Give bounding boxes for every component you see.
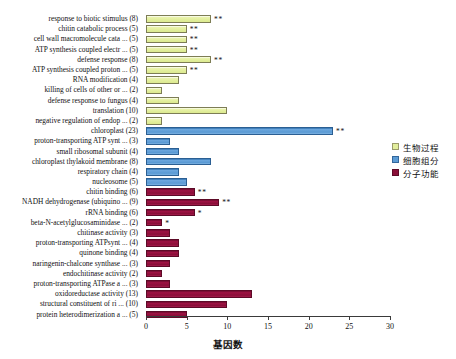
bar-row[interactable]: **	[146, 197, 390, 207]
bar-mf[interactable]	[146, 199, 219, 206]
legend-swatch-icon	[392, 156, 399, 163]
x-tick	[187, 316, 188, 320]
bar-bp[interactable]	[146, 36, 187, 43]
bar-row[interactable]	[146, 259, 390, 269]
x-axis-title: 基因数	[0, 337, 456, 351]
bar-cc[interactable]	[146, 127, 333, 134]
bar-cc[interactable]	[146, 168, 179, 175]
bar-bp[interactable]	[146, 56, 211, 63]
bar-cc[interactable]	[146, 148, 179, 155]
x-tick	[268, 316, 269, 320]
bar-row[interactable]: **	[146, 65, 390, 75]
go-enrichment-bar-chart: response to biotic stimulus (8)chitin ca…	[0, 0, 456, 359]
bar-row[interactable]: **	[146, 14, 390, 24]
bar-mf[interactable]	[146, 219, 162, 226]
bar-mf[interactable]	[146, 229, 170, 236]
category-label: oxidoreductase activity (13)	[55, 290, 138, 298]
legend-item-bp[interactable]: 生物过程	[392, 140, 439, 153]
bar-mf[interactable]	[146, 270, 162, 277]
legend-item-cc[interactable]: 细胞组分	[392, 153, 439, 166]
significance-marker: **	[190, 66, 199, 75]
legend-item-mf[interactable]: 分子功能	[392, 166, 439, 179]
bar-bp[interactable]	[146, 117, 162, 124]
bar-bp[interactable]	[146, 25, 187, 32]
category-label-row: ATP synthesis coupled electr ... (5)	[0, 45, 142, 55]
bar-cc[interactable]	[146, 138, 170, 145]
bar-row[interactable]	[146, 228, 390, 238]
category-label-row: protein heterodimerization a ... (5)	[0, 309, 142, 319]
category-label-row: RNA modification (4)	[0, 75, 142, 85]
bar-row[interactable]: **	[146, 34, 390, 44]
bar-row[interactable]	[146, 85, 390, 95]
bar-mf[interactable]	[146, 311, 187, 318]
bar-row[interactable]: **	[146, 55, 390, 65]
category-label: structural constituent of ri ... (10)	[40, 300, 138, 308]
category-label-row: proton-transporting ATPase a ... (3)	[0, 279, 142, 289]
category-label-row: chitin binding (6)	[0, 187, 142, 197]
x-tick-label: 25	[345, 322, 353, 331]
bar-mf[interactable]	[146, 290, 252, 297]
bar-row[interactable]	[146, 96, 390, 106]
category-label: beta-N-acetylglucosaminidase ... (2)	[31, 219, 138, 227]
category-label: defense response (8)	[77, 56, 138, 64]
bar-mf[interactable]	[146, 301, 227, 308]
legend-swatch-icon	[392, 143, 399, 150]
category-label: small ribosomal subunit (4)	[57, 148, 139, 156]
bar-mf[interactable]	[146, 188, 195, 195]
bar-row[interactable]: **	[146, 126, 390, 136]
category-label: cell wall macromolecule cata ... (5)	[34, 35, 138, 43]
bar-row[interactable]	[146, 177, 390, 187]
bar-mf[interactable]	[146, 260, 170, 267]
bar-row[interactable]: **	[146, 45, 390, 55]
category-label-column: response to biotic stimulus (8)chitin ca…	[0, 14, 142, 310]
bar-row[interactable]: **	[146, 24, 390, 34]
bar-cc[interactable]	[146, 158, 211, 165]
category-label-row: NADH dehydrogenase (ubiquino ... (9)	[0, 197, 142, 207]
bar-cc[interactable]	[146, 178, 187, 185]
significance-marker: **	[190, 35, 199, 44]
significance-marker: *	[165, 218, 169, 227]
bar-mf[interactable]	[146, 280, 170, 287]
significance-marker: *	[198, 208, 202, 217]
category-label: endochitinase activity (2)	[63, 270, 138, 278]
category-label: chloroplast (23)	[91, 127, 138, 135]
bar-row[interactable]	[146, 157, 390, 167]
bar-row[interactable]	[146, 146, 390, 156]
bar-row[interactable]	[146, 248, 390, 258]
legend: 生物过程细胞组分分子功能	[392, 140, 439, 179]
bar-bp[interactable]	[146, 97, 179, 104]
bar-row[interactable]	[146, 167, 390, 177]
category-label: ATP synthesis coupled proton ... (5)	[32, 66, 138, 74]
category-label: nucleosome (5)	[92, 178, 138, 186]
significance-marker: **	[190, 45, 199, 54]
bar-row[interactable]: **	[146, 187, 390, 197]
bar-mf[interactable]	[146, 209, 195, 216]
bar-row[interactable]	[146, 116, 390, 126]
bar-row[interactable]	[146, 75, 390, 85]
bar-bp[interactable]	[146, 87, 162, 94]
plot-area: ********************	[146, 14, 390, 310]
bar-bp[interactable]	[146, 107, 227, 114]
category-label-row: chloroplast thylakoid membrane (8)	[0, 157, 142, 167]
bar-row[interactable]: *	[146, 218, 390, 228]
bar-row[interactable]	[146, 279, 390, 289]
bar-mf[interactable]	[146, 239, 179, 246]
bar-row[interactable]	[146, 289, 390, 299]
bar-row[interactable]	[146, 106, 390, 116]
bar-row[interactable]	[146, 299, 390, 309]
category-label: proton-transporting ATPsynt ... (4)	[36, 239, 138, 247]
bar-bp[interactable]	[146, 15, 211, 22]
bar-row[interactable]	[146, 136, 390, 146]
bar-row[interactable]	[146, 238, 390, 248]
bar-bp[interactable]	[146, 76, 179, 83]
bar-bp[interactable]	[146, 46, 187, 53]
bar-row[interactable]: *	[146, 208, 390, 218]
category-label: ATP synthesis coupled electr ... (5)	[35, 46, 138, 54]
x-tick	[146, 316, 147, 320]
bar-mf[interactable]	[146, 250, 179, 257]
category-label-row: ATP synthesis coupled proton ... (5)	[0, 65, 142, 75]
category-label-row: negative regulation of endop ... (2)	[0, 116, 142, 126]
bar-bp[interactable]	[146, 66, 187, 73]
category-label: RNA modification (4)	[73, 76, 138, 84]
bar-row[interactable]	[146, 269, 390, 279]
